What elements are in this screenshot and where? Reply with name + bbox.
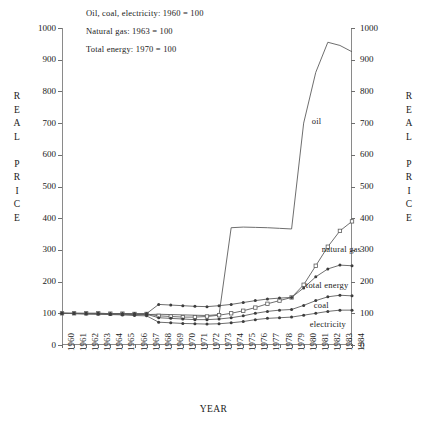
y-axis-title-letter: E — [10, 104, 24, 118]
y-axis-title-right: REAL PRICE — [402, 90, 416, 225]
x-tick-label: 1960 — [66, 333, 76, 351]
data-point — [169, 304, 172, 307]
data-point — [351, 294, 354, 297]
data-point — [278, 316, 281, 319]
x-tick-label: 1971 — [199, 333, 209, 351]
y-tick-label-left: 1000 — [22, 24, 56, 33]
data-point — [242, 320, 245, 323]
data-point — [121, 313, 124, 316]
data-point — [73, 312, 76, 315]
data-point — [230, 321, 233, 324]
y-axis-title-letter: C — [402, 198, 416, 212]
series-label-electricity: electricity — [310, 319, 346, 329]
y-tick-label-right: 200 — [360, 277, 394, 286]
y-axis-title-letter: P — [402, 158, 416, 172]
data-point — [109, 313, 112, 316]
y-axis-title-letter — [402, 144, 416, 158]
x-tick-label: 1980 — [308, 333, 318, 351]
series-label-coal: coal — [314, 300, 329, 310]
data-point — [350, 220, 353, 223]
data-point — [85, 312, 88, 315]
x-tick-label: 1966 — [139, 333, 149, 351]
y-axis-title-letter: A — [402, 117, 416, 131]
y-axis-title-letter: R — [402, 171, 416, 185]
data-point — [326, 310, 329, 313]
data-point — [266, 317, 269, 320]
y-axis-title-letter: E — [402, 212, 416, 226]
data-point — [157, 316, 160, 319]
y-tick-label-left: 600 — [22, 150, 56, 159]
series-path — [62, 42, 352, 315]
data-point — [61, 312, 64, 315]
data-point — [338, 229, 341, 232]
x-tick-label: 1978 — [284, 333, 294, 351]
data-point — [302, 286, 305, 289]
y-axis-title-letter: I — [402, 185, 416, 199]
data-point — [206, 318, 209, 321]
y-tick-label-left: 200 — [22, 277, 56, 286]
data-point — [338, 264, 341, 267]
y-tick-label-right: 800 — [360, 87, 394, 96]
data-point — [242, 314, 245, 317]
data-point — [157, 321, 160, 324]
series-label-oil: oil — [312, 116, 322, 126]
y-tick-label-right: 400 — [360, 214, 394, 223]
note-line-1: Oil, coal, electricity: 1960 = 100 — [86, 8, 204, 18]
x-tick-label: 1972 — [211, 333, 221, 351]
data-point — [278, 297, 281, 300]
data-point — [326, 267, 329, 270]
y-tick-label-left: 800 — [22, 87, 56, 96]
data-point — [218, 318, 221, 321]
data-point — [181, 304, 184, 307]
y-tick-label-right: 900 — [360, 55, 394, 64]
series-natural-gas — [60, 220, 353, 319]
data-point — [290, 316, 293, 319]
data-point — [218, 322, 221, 325]
y-tick-label-right: 100 — [360, 309, 394, 318]
y-axis-title-letter: P — [10, 158, 24, 172]
data-point — [351, 264, 354, 267]
x-tick-label: 1977 — [271, 333, 281, 351]
data-point — [133, 314, 136, 317]
data-point — [169, 321, 172, 324]
y-axis-title-letter: L — [402, 131, 416, 145]
series-oil — [62, 42, 352, 315]
series-lines — [62, 28, 352, 345]
x-tick-label: 1963 — [102, 333, 112, 351]
data-point — [205, 315, 208, 318]
data-point — [193, 322, 196, 325]
x-tick-label: 1984 — [356, 333, 366, 351]
x-tick-label: 1976 — [259, 333, 269, 351]
data-point — [242, 309, 245, 312]
data-point — [254, 318, 257, 321]
y-tick-label-right: 600 — [360, 150, 394, 159]
data-point — [169, 317, 172, 320]
data-point — [290, 308, 293, 311]
y-tick-label-left: 400 — [22, 214, 56, 223]
data-point — [206, 323, 209, 326]
data-point — [302, 304, 305, 307]
x-tick-label: 1967 — [151, 333, 161, 351]
data-point — [193, 318, 196, 321]
y-tick-label-right: 1000 — [360, 24, 394, 33]
x-tick-label: 1968 — [163, 333, 173, 351]
y-tick-label-left: 100 — [22, 309, 56, 318]
y-axis-title-letter: E — [402, 104, 416, 118]
data-point — [97, 313, 100, 316]
series-label-natural-gas: natural gas — [322, 244, 361, 254]
data-point — [338, 309, 341, 312]
y-tick-label-right: 500 — [360, 182, 394, 191]
data-point — [266, 302, 269, 305]
y-axis-title-letter: L — [10, 131, 24, 145]
data-point — [290, 296, 293, 299]
y-tick-label-left: 300 — [22, 245, 56, 254]
data-point — [242, 301, 245, 304]
data-point — [314, 275, 317, 278]
y-tick-label-left: 900 — [22, 55, 56, 64]
data-point — [218, 304, 221, 307]
x-tick-label: 1974 — [235, 333, 245, 351]
y-axis-title-letter: C — [10, 198, 24, 212]
x-tick-label: 1969 — [175, 333, 185, 351]
series-label-total-energy: total energy — [306, 280, 349, 290]
data-point — [217, 314, 220, 317]
